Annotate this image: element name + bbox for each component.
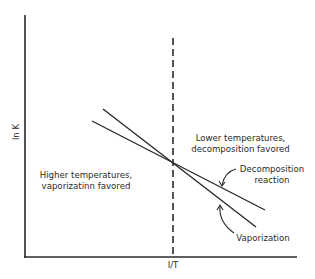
vaporization-label-text: Vaporization xyxy=(232,233,294,244)
right-region-label: Lower temperatures, decomposition favore… xyxy=(188,133,293,154)
vaporization-leader-arrow-icon xyxy=(220,206,234,233)
vaporization-line xyxy=(103,109,256,227)
left-region-label: Higher temperatures, vaporizatinn favore… xyxy=(36,170,136,191)
left-region-line1: Higher temperatures, xyxy=(36,170,136,181)
decomposition-label-line2: reaction xyxy=(236,175,308,186)
right-region-line2: decomposition favored xyxy=(188,144,293,155)
right-region-line1: Lower temperatures, xyxy=(188,133,293,144)
decomposition-label-line1: Decomposition xyxy=(236,164,308,175)
left-region-line2: vaporizatinn favored xyxy=(36,181,136,192)
x-axis-label: I/T xyxy=(160,260,186,270)
decomposition-reaction-label: Decomposition reaction xyxy=(236,164,308,185)
vaporization-label: Vaporization xyxy=(232,233,294,244)
y-axis-label: ln K xyxy=(6,122,26,142)
